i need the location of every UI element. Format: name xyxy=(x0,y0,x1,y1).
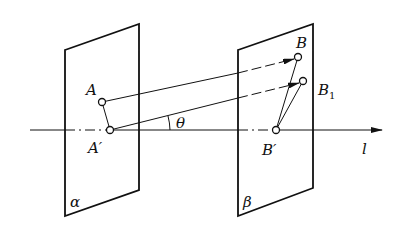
label-A: A xyxy=(84,81,97,99)
segment-B1-Bprime xyxy=(276,81,303,130)
geometry-diagram: A A′ θ B B1 B′ l α β xyxy=(0,0,398,236)
label-alpha: α xyxy=(70,193,80,211)
vector-Aprime-B1-solid xyxy=(110,98,238,130)
vector-A-B-solid xyxy=(102,73,238,102)
segment-B-Bprime xyxy=(276,57,298,130)
point-B xyxy=(295,54,302,61)
label-beta: β xyxy=(242,193,252,211)
plane-beta xyxy=(238,24,313,216)
plane-alpha xyxy=(65,24,139,216)
point-B1 xyxy=(300,78,307,85)
label-B: B xyxy=(295,34,307,52)
label-l: l xyxy=(362,140,367,158)
point-A-prime xyxy=(107,127,114,134)
label-A-prime: A′ xyxy=(86,139,103,157)
label-theta: θ xyxy=(176,114,185,132)
label-B1: B1 xyxy=(317,81,335,101)
point-B-prime xyxy=(273,127,280,134)
angle-theta-arc xyxy=(168,116,170,130)
point-A xyxy=(99,99,106,106)
label-B-prime: B′ xyxy=(261,141,277,159)
vector-A-B-dashed xyxy=(238,59,294,73)
segment-A-Aprime xyxy=(102,102,110,130)
